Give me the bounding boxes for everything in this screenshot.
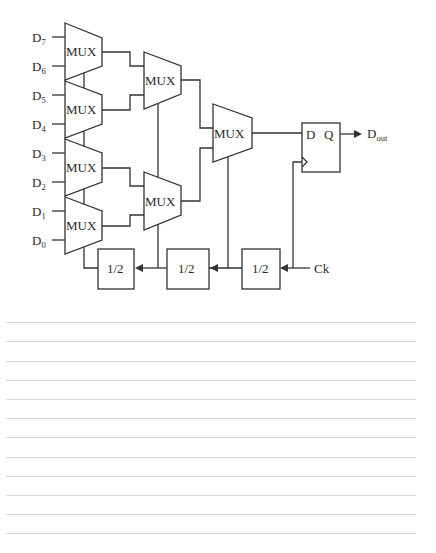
ruled-line <box>6 380 416 381</box>
ruled-line <box>6 399 416 400</box>
ruled-writing-lines <box>6 0 416 553</box>
ruled-line <box>6 322 416 323</box>
ruled-line <box>6 495 416 496</box>
ruled-line <box>6 476 416 477</box>
ruled-line <box>6 514 416 515</box>
ruled-line <box>6 361 416 362</box>
ruled-line <box>6 418 416 419</box>
ruled-line <box>6 341 416 342</box>
ruled-line <box>6 437 416 438</box>
ruled-line <box>6 533 416 534</box>
ruled-line <box>6 457 416 458</box>
